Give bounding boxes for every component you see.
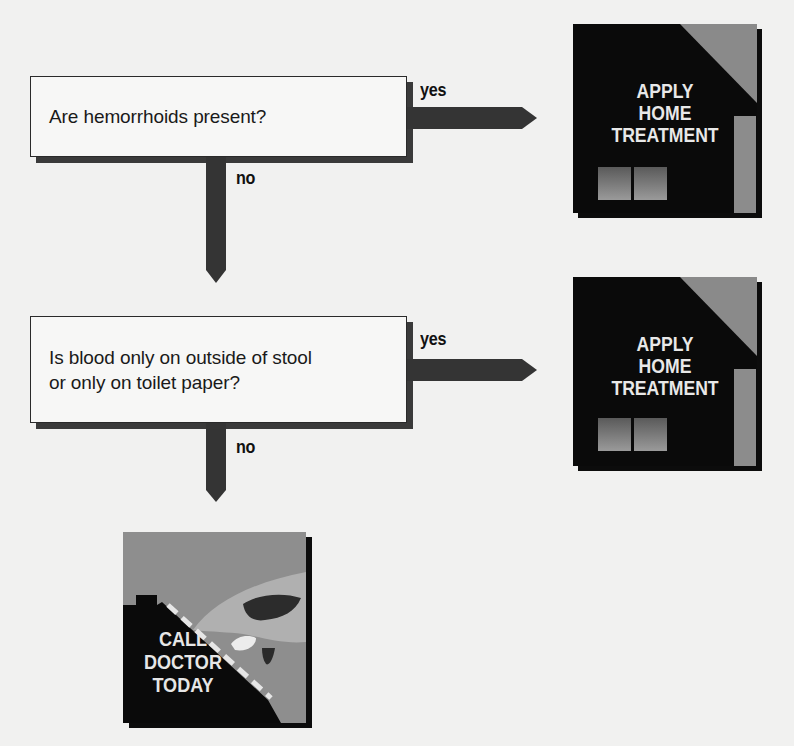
home-treatment-caption-2: APPLY HOME TREATMENT (596, 333, 733, 399)
call-doctor-caption: CALL DOCTOR TODAY (135, 627, 231, 696)
outcome-call-doctor-today: CALL DOCTOR TODAY (123, 532, 306, 723)
no-label-2: no (236, 436, 255, 458)
outcome-apply-home-treatment-2: APPLY HOME TREATMENT (573, 277, 757, 466)
